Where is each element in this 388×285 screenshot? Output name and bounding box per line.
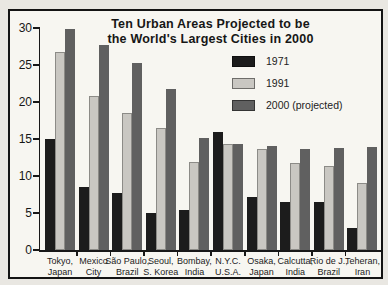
y-axis-tick [33,175,40,177]
bar-2000-teheran [367,147,377,250]
chart-frame: 051015202530Tokyo,JapanMexicoCitySão Pau… [8,9,383,279]
y-axis-tick [33,212,40,214]
chart-title-line1: Ten Urban Areas Projected to be [40,17,381,32]
chart-title: Ten Urban Areas Projected to be the Worl… [40,17,381,47]
bar-1971-tokyo [45,139,55,250]
bar-2000-riodej [334,148,344,250]
bar-1971-osaka [247,197,257,250]
y-axis-label: 30 [10,21,32,35]
bar-1991-calcutta [290,163,300,250]
bar-2000-mexico [99,45,109,250]
legend-label-2000: 2000 (projected) [266,99,342,111]
y-axis-label: 5 [10,206,32,220]
legend-label-1971: 1971 [266,55,289,67]
y-axis-label: 15 [10,132,32,146]
y-axis-tick [33,249,40,251]
bar-2000-sopaulo [132,63,142,250]
legend-label-1991: 1991 [266,77,289,89]
y-axis-label: 0 [10,243,32,257]
y-axis-tick [33,27,40,29]
x-axis-label-line: Iran [338,267,386,278]
bar-1991-tokyo [55,52,65,250]
x-axis-label: Teheran,Iran [338,256,386,277]
y-axis-label: 20 [10,95,32,109]
plot-area: 051015202530Tokyo,JapanMexicoCitySão Pau… [10,11,381,277]
bar-1991-osaka [257,149,267,250]
legend-item-1991: 1991 [232,77,342,89]
legend-item-2000: 2000 (projected) [232,99,342,111]
bar-1971-mexico [79,187,89,250]
bar-1971-bombay [179,210,189,250]
bar-1991-bombay [189,162,199,250]
y-axis-label: 10 [10,169,32,183]
bar-1991-nyc [223,144,233,250]
bar-1971-sopaulo [112,193,122,250]
legend-swatch-2000 [232,100,255,111]
x-axis-label-line: Teheran, [338,256,386,267]
y-axis-tick [33,138,40,140]
bar-2000-osaka [267,146,277,250]
bar-1991-teheran [357,183,367,250]
chart-figure: 051015202530Tokyo,JapanMexicoCitySão Pau… [0,0,388,285]
bar-1971-calcutta [280,202,290,250]
bar-1991-seoul [156,128,166,250]
legend-swatch-1991 [232,78,255,89]
bar-2000-seoul [166,89,176,250]
bar-1991-riodej [324,166,334,250]
bar-1971-nyc [213,132,223,250]
chart-title-line2: the World's Largest Cities in 2000 [40,32,381,47]
bar-2000-nyc [233,144,243,250]
legend: 1971 1991 2000 (projected) [232,55,342,121]
bar-1991-sopaulo [122,113,132,250]
legend-swatch-1971 [232,56,255,67]
bar-2000-bombay [199,138,209,250]
y-axis-tick [33,64,40,66]
bar-1971-riodej [314,202,324,250]
legend-item-1971: 1971 [232,55,342,67]
y-axis-tick [33,101,40,103]
bar-2000-calcutta [300,149,310,250]
bar-1971-seoul [146,213,156,250]
bar-2000-tokyo [65,29,75,250]
bar-1991-mexico [89,96,99,250]
y-axis-label: 25 [10,58,32,72]
bar-1971-teheran [347,228,357,250]
